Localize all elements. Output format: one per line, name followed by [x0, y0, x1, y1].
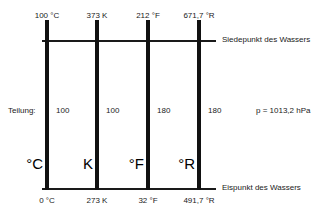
scale-bar-fahrenheit: [146, 20, 150, 190]
scale-bar-kelvin: [95, 20, 99, 190]
unit-label-rankine: °R: [157, 156, 195, 172]
unit-label-kelvin: K: [55, 156, 93, 172]
unit-label-celsius: °C: [5, 156, 43, 172]
scale-bar-rankine: [197, 20, 201, 190]
top-value-rankine: 671,7 °R: [159, 11, 239, 21]
temperature-scale-diagram: 100 °C 373 K 212 °F 671,7 °R 0 °C 273 K …: [0, 0, 331, 218]
bottom-value-rankine: 491,7 °R: [159, 196, 239, 206]
division-count-rankine: 180: [208, 106, 221, 116]
division-row-label: Teilung:: [8, 106, 36, 116]
division-count-fahrenheit: 180: [157, 106, 170, 116]
boiling-point-line: [42, 40, 216, 42]
unit-label-fahrenheit: °F: [106, 156, 144, 172]
freezing-point-line: [42, 188, 216, 190]
pressure-annotation: p = 1013,2 hPa: [256, 106, 311, 116]
division-count-celsius: 100: [56, 106, 69, 116]
scale-bar-celsius: [45, 20, 49, 190]
division-count-kelvin: 100: [106, 106, 119, 116]
boiling-point-caption: Siedepunkt des Wassers: [222, 35, 310, 45]
freezing-point-caption: Eispunkt des Wassers: [222, 183, 301, 193]
